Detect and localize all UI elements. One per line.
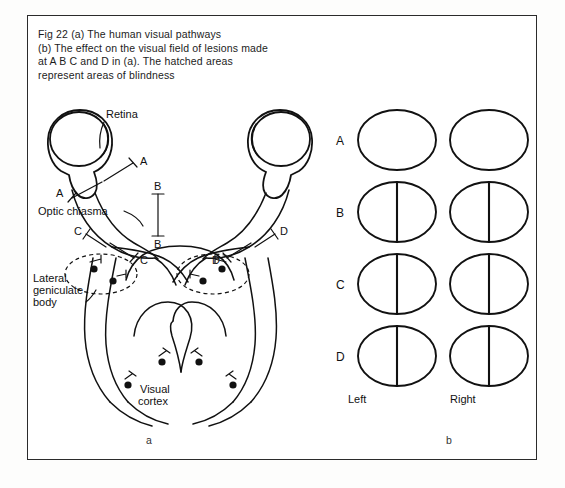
left-eye	[48, 110, 112, 198]
figure-root: Fig 22 (a) The human visual pathways (b)…	[0, 0, 565, 488]
label-visual-cortex-line1: Visual	[140, 383, 170, 395]
field-B-right	[450, 182, 528, 242]
label-optic-chiasma: Optic chiasma	[38, 205, 109, 217]
label-retina: Retina	[106, 108, 139, 120]
lesion-marker-D-upper: D	[255, 225, 288, 247]
lesion-label-C-upper: C	[74, 225, 82, 237]
lesion-label-B-lower: B	[154, 238, 161, 250]
column-header-left: Left	[348, 393, 366, 405]
right-eye	[248, 110, 312, 198]
row-label-D: D	[336, 350, 345, 364]
optic-chiasma	[112, 246, 249, 285]
field-C-right	[450, 254, 528, 314]
label-lgb-line1: Lateral	[33, 272, 67, 284]
column-header-right: Right	[450, 393, 476, 405]
lesion-marker-A-upper: A	[104, 155, 148, 181]
lesion-label-B-upper: B	[154, 180, 161, 192]
lesion-label-D-upper: D	[280, 225, 288, 237]
field-D-left	[358, 326, 436, 386]
lesion-label-C-lower: C	[140, 254, 148, 266]
field-C-left	[358, 254, 436, 314]
lesion-label-D-lower: D	[212, 254, 220, 266]
field-A-left	[358, 110, 436, 170]
field-B-left	[358, 182, 436, 242]
label-lgb-line2: geniculate	[33, 284, 83, 296]
optic-nerve-left	[72, 190, 158, 259]
lesion-label-A-upper: A	[140, 155, 148, 167]
label-lgb-line3: body	[33, 296, 57, 308]
optic-nerve-right	[203, 190, 289, 259]
lesion-marker-B: B B	[152, 180, 164, 250]
panel-a-pathways: Retina Optic chiasma	[33, 108, 312, 446]
figure-artwork: Retina Optic chiasma	[0, 0, 565, 488]
panel-label-b: b	[446, 434, 452, 446]
label-visual-cortex-line2: cortex	[138, 395, 168, 407]
panel-b-visual-fields: A B C	[336, 110, 528, 446]
panel-label-a: a	[146, 434, 152, 446]
lesion-label-A-lower: A	[56, 187, 64, 199]
field-D-right	[450, 326, 528, 386]
row-label-A: A	[336, 134, 344, 148]
visual-cortex	[134, 302, 226, 372]
row-label-C: C	[336, 278, 345, 292]
field-A-right	[450, 110, 528, 170]
row-label-B: B	[336, 206, 344, 220]
